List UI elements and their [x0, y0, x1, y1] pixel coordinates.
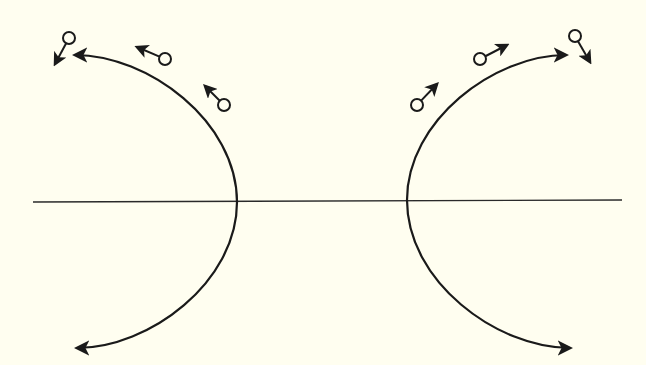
- diagram-canvas: [0, 0, 646, 365]
- trajectory-diagram: [0, 0, 646, 365]
- background: [0, 0, 646, 365]
